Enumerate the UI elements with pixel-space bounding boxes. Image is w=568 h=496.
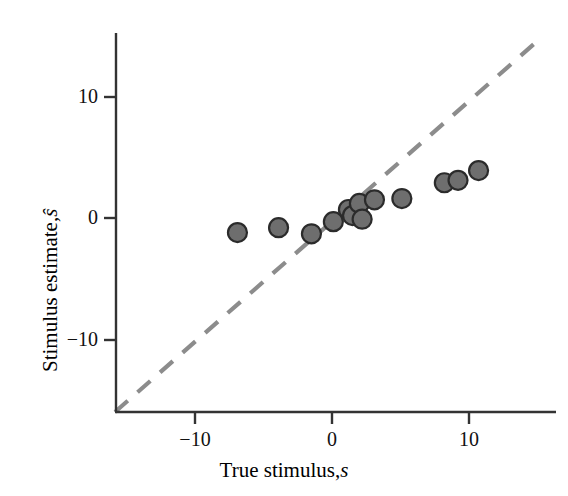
y-tick-label-10: 10 <box>60 85 98 108</box>
data-point <box>365 190 384 209</box>
data-point <box>269 218 288 237</box>
data-point <box>228 223 247 242</box>
y-axis-title: Stimulus estimate,ŝ <box>38 209 63 372</box>
y-tick-label-0: 0 <box>60 206 98 229</box>
data-point-group <box>228 161 488 243</box>
x-axis-title: True stimulus,s <box>0 458 568 483</box>
x-tick-label-neg10: −10 <box>165 428 225 451</box>
x-tick-label-10: 10 <box>439 428 499 451</box>
x-tick-label-0: 0 <box>302 428 362 451</box>
y-axis-title-symbol: ŝ <box>38 209 62 217</box>
data-point <box>469 161 488 180</box>
x-axis-title-text: True stimulus, <box>220 458 341 482</box>
data-point <box>353 210 372 229</box>
y-axis-title-text: Stimulus estimate, <box>38 217 62 372</box>
data-point <box>302 224 321 243</box>
scatter-plot-figure: 10 0 −10 −10 0 10 Stimulus estimate,ŝ Tr… <box>0 0 568 496</box>
data-point <box>449 171 468 190</box>
x-axis-title-symbol: s <box>340 458 348 482</box>
plot-canvas <box>0 0 568 496</box>
data-point <box>392 189 411 208</box>
